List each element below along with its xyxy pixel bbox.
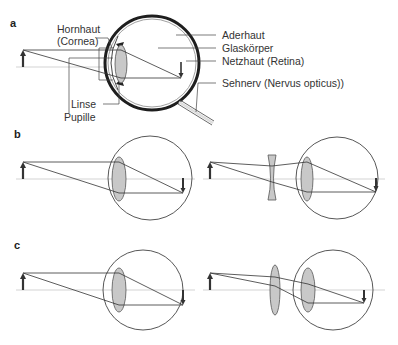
light-rays	[23, 162, 183, 193]
lens	[112, 157, 126, 201]
object-arrow-icon	[207, 273, 213, 290]
lens	[301, 268, 315, 312]
object-arrow-icon	[20, 162, 26, 179]
panel-a-label: a	[10, 17, 17, 29]
myopia-correction	[203, 137, 385, 219]
label-glaskoerper: Glaskörper	[222, 42, 274, 54]
panel-b-label: b	[14, 128, 21, 140]
convex-lens	[270, 265, 280, 315]
label-aderhaut: Aderhaut	[222, 29, 265, 41]
image-arrow-icon	[362, 290, 367, 303]
panel-a: a	[10, 16, 344, 125]
object-arrow-icon	[20, 273, 26, 290]
panel-b: b	[14, 128, 385, 220]
label-netzhaut: Netzhaut (Retina)	[222, 55, 304, 67]
light-rays	[210, 273, 364, 303]
eyeball	[105, 16, 214, 125]
object-arrow-icon	[207, 162, 213, 179]
label-linse: Linse	[71, 98, 96, 110]
light-rays	[210, 162, 376, 192]
object-arrow-icon	[20, 50, 26, 67]
lens	[115, 45, 127, 83]
eye-optics-diagram: a	[0, 0, 398, 345]
label-cornea: (Cornea)	[57, 35, 98, 47]
myopic-eye	[16, 136, 195, 220]
hyperopia-correction	[203, 250, 385, 330]
label-pupille: Pupille	[64, 111, 96, 123]
optic-nerve	[178, 100, 214, 125]
label-sehnerv: Sehnerv (Nervus opticus))	[222, 77, 344, 89]
image-arrow-icon	[181, 178, 186, 193]
label-hornhaut: Hornhaut	[57, 23, 100, 35]
concave-lens	[268, 155, 276, 200]
panel-c-label: c	[14, 239, 20, 251]
hyperopic-eye	[16, 250, 195, 330]
panel-c: c	[14, 239, 385, 330]
